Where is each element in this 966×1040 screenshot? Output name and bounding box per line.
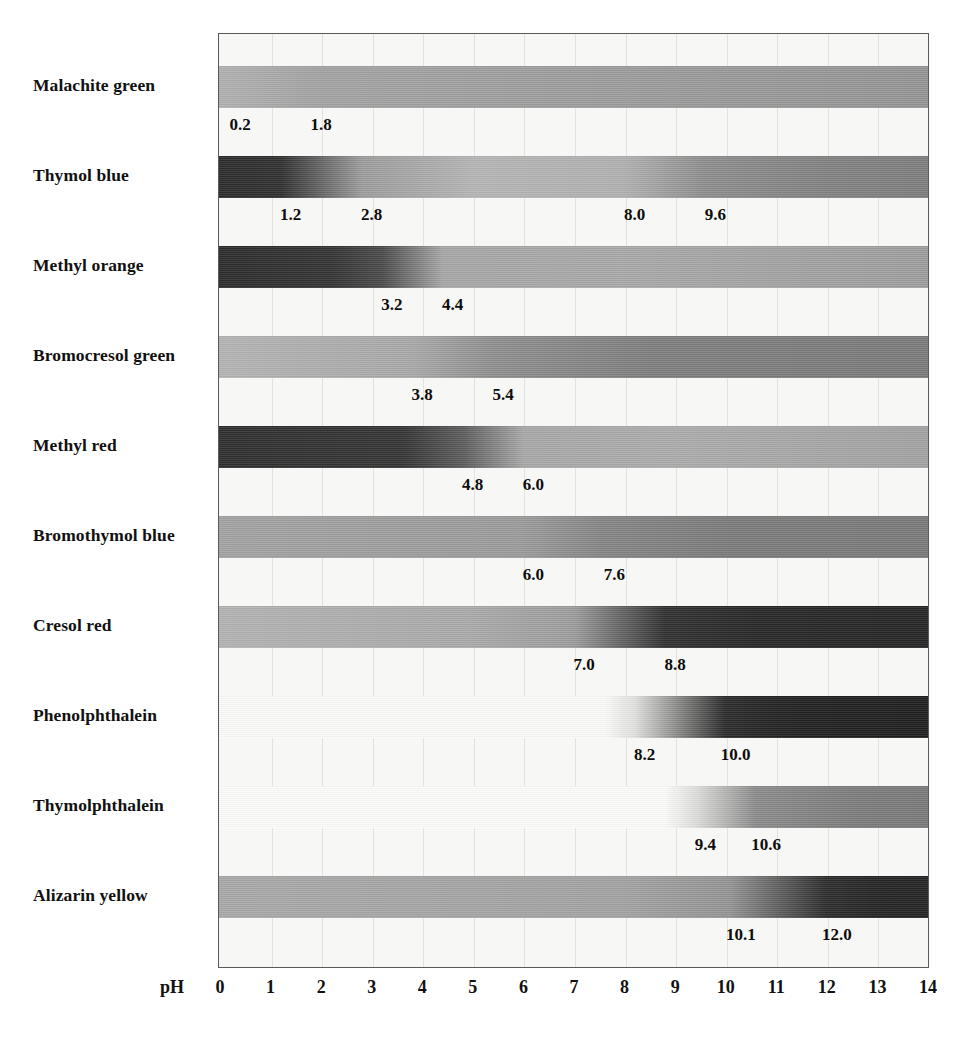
ph-tick-4: 4 [418, 977, 427, 998]
indicator-band [219, 786, 928, 828]
ph-range-value: 9.4 [695, 835, 716, 855]
ph-tick-13: 13 [868, 977, 886, 998]
ph-tick-9: 9 [671, 977, 680, 998]
ph-tick-5: 5 [468, 977, 477, 998]
ph-range-value: 10.1 [726, 925, 756, 945]
ph-range-value: 1.8 [310, 115, 331, 135]
ph-tick-0: 0 [216, 977, 225, 998]
indicator-name-label: Methyl red [33, 435, 213, 456]
ph-tick-12: 12 [818, 977, 836, 998]
ph-axis: pH 01234567891011121314 [0, 975, 966, 1015]
indicator-band [219, 426, 928, 468]
ph-range-value: 8.8 [664, 655, 685, 675]
indicator-band [219, 336, 928, 378]
ph-range-value: 4.4 [442, 295, 463, 315]
indicator-band [219, 246, 928, 288]
ph-tick-11: 11 [768, 977, 785, 998]
ph-range-value: 5.4 [492, 385, 513, 405]
ph-range-value: 2.8 [361, 205, 382, 225]
indicator-name-label: Malachite green [33, 75, 213, 96]
indicator-band [219, 696, 928, 738]
ph-range-value: 4.8 [462, 475, 483, 495]
ph-range-value: 10.0 [721, 745, 751, 765]
indicator-name-label: Cresol red [33, 615, 213, 636]
band-gradient [219, 426, 928, 468]
ph-range-value: 8.0 [624, 205, 645, 225]
ph-range-value: 8.2 [634, 745, 655, 765]
band-gradient [219, 336, 928, 378]
ph-tick-8: 8 [620, 977, 629, 998]
ph-tick-1: 1 [266, 977, 275, 998]
indicator-name-label: Methyl orange [33, 255, 213, 276]
ph-chart-plot-area [218, 33, 929, 968]
indicator-band [219, 156, 928, 198]
ph-range-value: 3.8 [412, 385, 433, 405]
ph-tick-2: 2 [317, 977, 326, 998]
ph-range-value: 10.6 [751, 835, 781, 855]
ph-range-value: 3.2 [381, 295, 402, 315]
ph-range-value: 7.0 [573, 655, 594, 675]
ph-range-value: 12.0 [822, 925, 852, 945]
indicator-band [219, 606, 928, 648]
ph-axis-caption: pH [160, 977, 184, 998]
indicator-name-label: Thymol blue [33, 165, 213, 186]
band-gradient [219, 66, 928, 108]
band-gradient [219, 876, 928, 918]
ph-range-value: 9.6 [705, 205, 726, 225]
ph-range-value: 6.0 [523, 565, 544, 585]
indicator-band [219, 516, 928, 558]
ph-tick-6: 6 [519, 977, 528, 998]
ph-range-value: 0.2 [229, 115, 250, 135]
band-gradient [219, 246, 928, 288]
ph-range-value: 7.6 [604, 565, 625, 585]
ph-tick-10: 10 [717, 977, 735, 998]
band-gradient [219, 696, 928, 738]
indicator-name-label: Alizarin yellow [33, 885, 213, 906]
band-gradient [219, 786, 928, 828]
band-gradient [219, 606, 928, 648]
indicator-name-label: Thymolphthalein [33, 795, 213, 816]
ph-tick-14: 14 [919, 977, 937, 998]
ph-range-value: 6.0 [523, 475, 544, 495]
band-gradient [219, 516, 928, 558]
indicator-name-label: Phenolphthalein [33, 705, 213, 726]
ph-tick-3: 3 [367, 977, 376, 998]
ph-range-value: 1.2 [280, 205, 301, 225]
indicator-name-label: Bromocresol green [33, 345, 213, 366]
indicator-band [219, 876, 928, 918]
indicator-band [219, 66, 928, 108]
ph-tick-7: 7 [570, 977, 579, 998]
band-gradient [219, 156, 928, 198]
indicator-name-label: Bromothymol blue [33, 525, 213, 546]
